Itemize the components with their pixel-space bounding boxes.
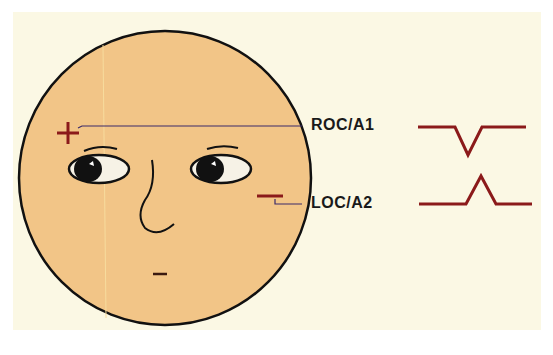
roc-a1-label: ROC/A1 — [311, 116, 374, 134]
face — [19, 31, 311, 325]
roc-waveform — [418, 127, 526, 155]
eog-diagram — [0, 0, 553, 355]
loc-a2-label: LOC/A2 — [311, 194, 373, 212]
loc-waveform — [419, 176, 532, 204]
